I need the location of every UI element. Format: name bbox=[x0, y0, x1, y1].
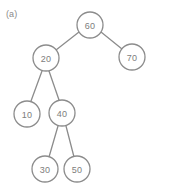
tree-node-label-70: 70 bbox=[127, 53, 137, 63]
tree-node-label-10: 10 bbox=[22, 110, 32, 120]
tree-node-label-40: 40 bbox=[57, 109, 67, 119]
tree-node-10[interactable]: 10 bbox=[14, 101, 40, 127]
tree-node-label-50: 50 bbox=[72, 165, 82, 175]
tree-node-60[interactable]: 60 bbox=[77, 12, 103, 38]
tree-node-70[interactable]: 70 bbox=[119, 44, 145, 70]
tree-edge-40-30 bbox=[49, 126, 58, 157]
tree-node-label-30: 30 bbox=[40, 165, 50, 175]
tree-edge-20-10 bbox=[31, 71, 42, 101]
tree-node-20[interactable]: 20 bbox=[33, 45, 59, 71]
tree-edge-60-70 bbox=[101, 32, 122, 49]
tree-edge-20-40 bbox=[49, 71, 59, 100]
tree-node-layer: 60207010403050 bbox=[14, 12, 145, 182]
tree-node-label-60: 60 bbox=[85, 21, 95, 31]
figure-container: (a) 60207010403050 bbox=[0, 0, 171, 189]
tree-edge-60-20 bbox=[56, 32, 79, 50]
tree-edge-40-50 bbox=[66, 126, 74, 157]
tree-node-50[interactable]: 50 bbox=[64, 156, 90, 182]
binary-search-tree-diagram: 60207010403050 bbox=[0, 0, 171, 189]
tree-node-30[interactable]: 30 bbox=[32, 156, 58, 182]
tree-node-label-20: 20 bbox=[41, 54, 51, 64]
tree-node-40[interactable]: 40 bbox=[49, 100, 75, 126]
